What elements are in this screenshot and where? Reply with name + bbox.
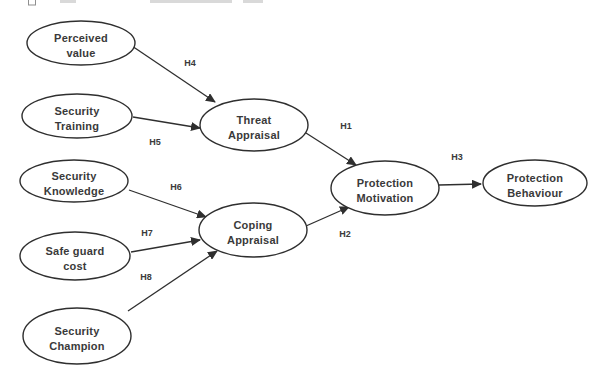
node-security-champion: Security Champion [23,308,131,364]
edge-protection-motivation-to-protection-behaviour [439,184,481,185]
edge-security-knowledge-to-coping-appraisal [129,190,206,217]
node-label: Motivation [357,192,414,204]
hypothesis-label-h2: H2 [339,229,351,239]
node-coping-appraisal: Coping Appraisal [199,203,307,257]
node-label: Security [51,170,97,182]
node-protection-motivation: Protection Motivation [331,161,439,215]
node-label: Perceived [54,32,108,44]
edge-perceived-value-to-threat-appraisal [132,46,215,102]
hypothesis-label-h1: H1 [340,121,352,131]
hypothesis-label-h8: H8 [140,272,152,282]
node-label: value [66,47,95,59]
model-diagram-page: H4 H5 H6 H7 H8 H1 H2 H3 Perceived value … [0,0,604,374]
cropped-caption-checkbox-glyph [29,0,36,5]
edge-safe-guard-cost-to-coping-appraisal [131,240,200,252]
node-label: Protection [507,172,563,184]
hypothesis-label-h4: H4 [184,58,196,68]
node-label: Champion [49,340,104,352]
edge-threat-appraisal-to-protection-motivation [306,133,356,165]
node-label: Security [54,325,100,337]
node-label: Appraisal [227,234,279,246]
node-safe-guard-cost: Safe guard cost [20,232,130,280]
node-label: Training [55,120,99,132]
hypothesis-label-h5: H5 [149,137,161,147]
node-label: Coping [233,219,272,231]
hypothesis-label-h6: H6 [170,182,182,192]
node-label: Knowledge [44,185,104,197]
node-label: Safe guard [46,245,105,257]
edge-security-training-to-threat-appraisal [133,117,200,128]
node-security-training: Security Training [22,94,132,138]
node-label: Behaviour [507,187,563,199]
node-label: Protection [357,177,413,189]
protection-motivation-model-diagram: H4 H5 H6 H7 H8 H1 H2 H3 Perceived value … [0,0,604,374]
node-security-knowledge: Security Knowledge [20,160,128,202]
edge-coping-appraisal-to-protection-motivation [306,207,349,226]
hypothesis-label-h7: H7 [141,228,153,238]
hypothesis-label-h3: H3 [451,152,463,162]
node-label: Threat [237,114,272,126]
node-threat-appraisal: Threat Appraisal [200,99,308,151]
cropped-caption-fragment [29,0,264,5]
node-perceived-value: Perceived value [27,21,135,65]
node-label: Appraisal [228,129,280,141]
node-label: cost [63,260,87,272]
node-label: Security [54,105,100,117]
node-protection-behaviour: Protection Behaviour [483,160,587,206]
